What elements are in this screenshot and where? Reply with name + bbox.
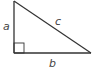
- label-b: b: [49, 57, 56, 70]
- label-a: a: [3, 20, 10, 33]
- right-triangle-diagram: a c b: [0, 0, 92, 71]
- label-c: c: [55, 15, 61, 28]
- hypotenuse-c: [14, 1, 91, 53]
- right-angle-marker: [14, 43, 24, 53]
